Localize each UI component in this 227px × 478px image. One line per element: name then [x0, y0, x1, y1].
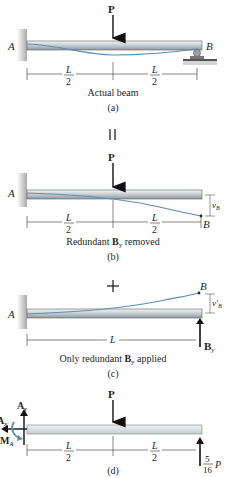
reaction-ay: Ay [17, 400, 27, 412]
label-b: B [206, 40, 213, 52]
svg-text:L: L [65, 212, 72, 223]
caption-b: Redundant By removed [66, 236, 160, 249]
svg-text:5: 5 [205, 454, 210, 464]
caption-c: Only redundant By applied [59, 353, 166, 366]
panel-label-a: (a) [107, 102, 118, 114]
dim-half-right: L 2 [148, 64, 162, 87]
reaction-b: 5 16 P [203, 454, 221, 475]
label-a: A [7, 40, 15, 52]
wall-c [17, 295, 27, 329]
deflection-vb-prime: v′B [212, 298, 222, 309]
load-p-label: P [108, 388, 115, 400]
moment-ma: MA [0, 435, 13, 447]
end-label-b: B [203, 218, 210, 230]
svg-text:L: L [151, 440, 158, 451]
load-p-label: P [108, 151, 115, 163]
caption-a: Actual beam [88, 87, 139, 98]
equals-sign [110, 129, 115, 140]
moment-arrow [12, 422, 20, 438]
panel-label-d: (d) [107, 465, 119, 477]
beam-superposition-diagram: A B P L 2 L 2 Actual be [0, 0, 227, 478]
dim-half-right: L 2 [148, 440, 162, 463]
svg-text:A: A [7, 308, 15, 320]
panel-label-c: (c) [107, 368, 118, 380]
end-label-b: B [200, 280, 207, 292]
reaction-ax: Ax [0, 415, 7, 427]
panel-c-redundant-applied: A B v′B By L Only redundant By applied (… [7, 280, 222, 380]
load-p-label: P [108, 3, 115, 15]
svg-text:L: L [151, 64, 158, 75]
dim-half-right: L 2 [148, 212, 162, 235]
svg-text:16: 16 [203, 465, 213, 475]
dim-half-left: L 2 [62, 212, 76, 235]
svg-text:2: 2 [66, 224, 71, 235]
svg-text:2: 2 [152, 76, 157, 87]
plus-sign [107, 280, 119, 292]
svg-text:L: L [151, 212, 158, 223]
beam [27, 41, 202, 50]
svg-text:2: 2 [66, 452, 71, 463]
svg-text:L: L [65, 440, 72, 451]
force-by-label: By [204, 340, 215, 354]
panel-b-redundant-removed: A P vB L 2 L 2 B Redundant By removed (b… [7, 151, 220, 263]
svg-text:2: 2 [152, 224, 157, 235]
deflection-vb: vB [212, 200, 220, 211]
svg-text:2: 2 [66, 76, 71, 87]
panel-label-b: (b) [107, 251, 119, 263]
beam [27, 309, 202, 318]
svg-text:A: A [7, 187, 15, 199]
panel-a-actual-beam: A B P L 2 L 2 Actual be [7, 3, 217, 114]
wall-a [17, 29, 27, 61]
svg-text:2: 2 [152, 452, 157, 463]
svg-text:P: P [214, 459, 221, 470]
panel-d-free-body: P Ay Ax MA 5 16 P L 2 [0, 388, 221, 477]
wall-b [17, 173, 27, 207]
dim-half-left: L 2 [62, 440, 76, 463]
svg-text:L: L [65, 64, 72, 75]
dim-half-left: L 2 [62, 64, 76, 87]
beam [27, 425, 202, 434]
dim-l: L [109, 334, 116, 345]
